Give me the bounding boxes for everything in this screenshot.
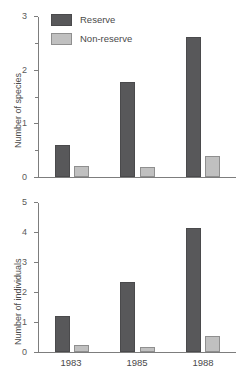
y-tick-label: 1 [22, 318, 27, 327]
y-tick-major: 2 [34, 70, 38, 71]
bar-non-reserve-1983 [74, 166, 89, 177]
x-axis-label-1985: 1985 [126, 357, 147, 369]
y-tick-major: 0 [34, 177, 38, 178]
y-tick-minor [35, 97, 38, 98]
bar-non-reserve-1988 [205, 336, 220, 352]
bar-group-individuals [39, 203, 236, 352]
plot-area-individuals: 012345 [38, 203, 236, 353]
legend-swatch-reserve [51, 14, 72, 26]
y-tick-label: 5 [22, 198, 27, 207]
bar-non-reserve-1983 [74, 345, 89, 352]
y-tick-major: 0 [34, 352, 38, 353]
y-tick-minor [35, 43, 38, 44]
figure-two-panel-bar-chart: Number of species 0123 Reserve Non-reser… [0, 0, 243, 387]
bar-reserve-1988 [186, 228, 201, 352]
bar-non-reserve-1985 [140, 347, 155, 352]
bar-reserve-1985 [120, 282, 135, 352]
y-tick-major: 1 [34, 123, 38, 124]
bar-reserve-1983 [55, 145, 70, 177]
legend: Reserve Non-reserve [51, 12, 171, 50]
bar-reserve-1983 [55, 316, 70, 352]
x-axis-line-individuals [38, 352, 236, 353]
legend-swatch-non-reserve [51, 33, 72, 45]
y-tick-major: 3 [34, 262, 38, 263]
legend-entry-non-reserve: Non-reserve [51, 31, 171, 46]
y-tick-minor [35, 150, 38, 151]
y-tick-label: 0 [22, 348, 27, 357]
x-axis-line-species [38, 177, 236, 178]
y-tick-label: 3 [22, 258, 27, 267]
legend-entry-reserve: Reserve [51, 12, 171, 27]
y-tick-label: 2 [22, 65, 27, 74]
y-tick-major: 3 [34, 16, 38, 17]
x-axis-label-1983: 1983 [60, 357, 81, 369]
bar-non-reserve-1985 [140, 167, 155, 177]
x-axis-category-labels: 198319851988 [38, 357, 236, 371]
y-tick-major: 5 [34, 202, 38, 203]
y-tick-major: 1 [34, 322, 38, 323]
x-axis-label-1988: 1988 [192, 357, 213, 369]
y-tick-label: 2 [22, 288, 27, 297]
bar-reserve-1988 [186, 37, 201, 177]
panel-number-of-species: Number of species 0123 Reserve Non-reser… [0, 0, 243, 195]
bar-reserve-1985 [120, 82, 135, 177]
y-tick-major: 4 [34, 232, 38, 233]
y-tick-label: 4 [22, 228, 27, 237]
legend-label-non-reserve: Non-reserve [80, 33, 132, 44]
y-tick-label: 0 [22, 173, 27, 182]
y-tick-major: 2 [34, 292, 38, 293]
y-axis-label-species: Number of species [14, 73, 23, 148]
y-tick-label: 3 [22, 12, 27, 21]
y-tick-label: 1 [22, 119, 27, 128]
legend-label-reserve: Reserve [80, 14, 115, 25]
bar-non-reserve-1988 [205, 156, 220, 177]
y-axis-label-individuals: Number of individuals [14, 258, 23, 345]
